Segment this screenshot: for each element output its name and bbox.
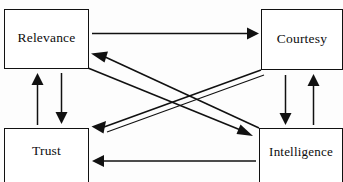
node-trust[interactable]: Trust bbox=[4, 128, 89, 182]
edge-intelligence-to-courtesy bbox=[308, 74, 320, 125]
node-courtesy-label: Courtesy bbox=[277, 32, 327, 48]
node-relevance[interactable]: Relevance bbox=[4, 9, 89, 69]
edge-relevance-to-trust bbox=[56, 73, 68, 124]
edge-courtesy-to-intelligence bbox=[280, 75, 292, 125]
node-courtesy[interactable]: Courtesy bbox=[261, 9, 343, 70]
node-intelligence-label: Intelligence bbox=[269, 145, 333, 170]
edge-relevance-to-intelligence bbox=[88, 68, 253, 136]
edge-intelligence-to-trust bbox=[92, 155, 256, 167]
edge-intelligence-to-relevance bbox=[91, 52, 259, 129]
diagram-canvas: Relevance Courtesy Trust Intelligence bbox=[0, 0, 343, 182]
node-trust-label: Trust bbox=[32, 144, 61, 170]
node-relevance-label: Relevance bbox=[17, 31, 75, 47]
edge-trust-to-relevance bbox=[32, 73, 44, 125]
edge-relevance-to-courtesy bbox=[92, 28, 259, 40]
node-intelligence[interactable]: Intelligence bbox=[259, 128, 343, 182]
edge-trust-to-courtesy bbox=[107, 75, 264, 132]
